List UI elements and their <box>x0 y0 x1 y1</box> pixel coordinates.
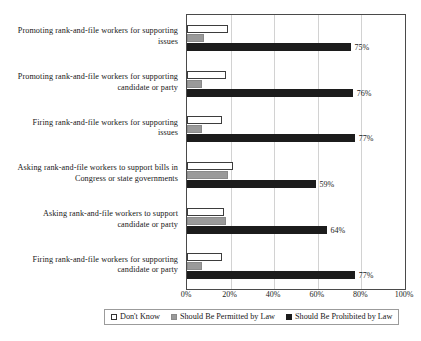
bar-value-label: 59% <box>320 181 335 189</box>
gridline <box>274 15 275 289</box>
category-label-line: Asking rank-and-file workers to support … <box>0 163 178 173</box>
category-label-line: Firing rank-and-file workers for support… <box>0 118 178 128</box>
legend-item[interactable]: Should Be Permitted by Law <box>171 312 275 322</box>
category-label-line: Asking rank-and-file workers to support <box>0 209 178 219</box>
legend-label: Should Be Permitted by Law <box>180 312 275 322</box>
x-axis-tick-labels: 0%20%40%60%80%100% <box>186 290 406 304</box>
bar-value-label: 77% <box>359 272 374 280</box>
legend-swatch-icon <box>171 314 177 320</box>
bar-dk <box>187 116 222 124</box>
category-label: Asking rank-and-file workers to support … <box>0 163 178 184</box>
bar-value-label: 77% <box>359 135 374 143</box>
category-axis-labels: Promoting rank-and-file workers for supp… <box>0 14 182 288</box>
bar-dk <box>187 208 224 216</box>
category-label-line: Promoting rank-and-file workers for supp… <box>0 26 178 36</box>
bar-permitted <box>187 34 204 42</box>
bar-group: 64% <box>187 208 405 234</box>
bar-group: 77% <box>187 253 405 279</box>
bar-permitted <box>187 171 228 179</box>
legend-item[interactable]: Should Be Prohibited by Law <box>286 312 392 322</box>
category-label-line: candidate or party <box>0 220 178 230</box>
category-label-line: issues <box>0 128 178 138</box>
legend-label: Don't Know <box>120 312 160 322</box>
gridline <box>361 15 362 289</box>
category-label: Asking rank-and-file workers to supportc… <box>0 209 178 230</box>
x-tick-label: 20% <box>222 290 237 300</box>
gridline <box>318 15 319 289</box>
bar-permitted <box>187 262 202 270</box>
horizontal-bar-chart: Promoting rank-and-file workers for supp… <box>0 0 421 341</box>
bar-group: 76% <box>187 71 405 97</box>
bar-group: 59% <box>187 162 405 188</box>
x-tick-label: 60% <box>309 290 324 300</box>
category-label-line: Firing rank-and-file workers for support… <box>0 255 178 265</box>
chart-legend: Don't KnowShould Be Permitted by LawShou… <box>104 309 399 325</box>
x-tick-label: 80% <box>353 290 368 300</box>
bar-prohibited <box>187 180 316 188</box>
bar-group: 75% <box>187 25 405 51</box>
bar-value-label: 64% <box>331 227 346 235</box>
bar-dk <box>187 162 233 170</box>
category-label: Firing rank-and-file workers for support… <box>0 118 178 139</box>
legend-swatch-icon <box>111 314 117 320</box>
bar-dk <box>187 71 226 79</box>
bar-prohibited <box>187 226 327 234</box>
legend-item[interactable]: Don't Know <box>111 312 160 322</box>
bar-prohibited <box>187 271 355 279</box>
x-tick-label: 40% <box>266 290 281 300</box>
x-tick-label: 0% <box>181 290 192 300</box>
bar-value-label: 75% <box>355 44 370 52</box>
plot-area: 75%76%77%59%64%77% <box>186 14 406 290</box>
bar-dk <box>187 25 228 33</box>
bar-prohibited <box>187 89 353 97</box>
bar-permitted <box>187 125 202 133</box>
bar-prohibited <box>187 43 351 51</box>
bar-group: 77% <box>187 116 405 142</box>
category-label: Promoting rank-and-file workers for supp… <box>0 26 178 47</box>
legend-label: Should Be Prohibited by Law <box>295 312 392 322</box>
category-label: Promoting rank-and-file workers for supp… <box>0 72 178 93</box>
category-label: Firing rank-and-file workers for support… <box>0 255 178 276</box>
gridline <box>231 15 232 289</box>
bar-prohibited <box>187 134 355 142</box>
bar-permitted <box>187 80 202 88</box>
bar-value-label: 76% <box>357 90 372 98</box>
category-label-line: candidate or party <box>0 265 178 275</box>
category-label-line: Promoting rank-and-file workers for supp… <box>0 72 178 82</box>
bar-dk <box>187 253 222 261</box>
category-label-line: Congress or state governments <box>0 174 178 184</box>
bar-permitted <box>187 217 226 225</box>
category-label-line: issues <box>0 37 178 47</box>
category-label-line: candidate or party <box>0 83 178 93</box>
x-tick-label: 100% <box>395 290 414 300</box>
legend-swatch-icon <box>286 314 292 320</box>
